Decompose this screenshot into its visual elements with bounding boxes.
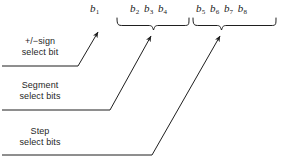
brace-segment-bits (117, 18, 189, 30)
bit-symbol-b3: b3 (144, 2, 153, 14)
bit-allocation-diagram: b1 b2 b3 b4 b5 b6 b7 b8 +/−sign select b… (0, 0, 284, 164)
bit-symbol-b7: b7 (224, 2, 233, 14)
label-sign-line1: +/−sign (2, 36, 78, 47)
bit-subscript-2: 2 (136, 8, 140, 16)
label-step-line2: select bits (2, 137, 78, 148)
bit-subscript-6: 6 (215, 8, 219, 16)
brace-step-bits (193, 18, 276, 30)
bit-symbol-b1: b1 (90, 2, 99, 14)
label-sign-select-bit: +/−sign select bit (2, 36, 78, 58)
bit-symbol-b6: b6 (210, 2, 219, 14)
bit-group-step: b5 b6 b7 b8 (196, 2, 247, 14)
bit-subscript-4: 4 (163, 8, 167, 16)
bit-subscript-1: 1 (96, 8, 100, 16)
bit-subscript-7: 7 (229, 8, 233, 16)
bit-symbol-b4: b4 (158, 2, 167, 14)
label-sign-line2: select bit (2, 47, 78, 58)
bit-group-sign: b1 (90, 2, 99, 14)
bit-subscript-5: 5 (202, 8, 206, 16)
label-step-select-bits: Step select bits (2, 126, 78, 148)
label-step-line1: Step (2, 126, 78, 137)
bit-symbol-b5: b5 (196, 2, 205, 14)
label-segment-select-bits: Segment select bits (2, 80, 78, 102)
bit-symbol-b8: b8 (238, 2, 247, 14)
bit-symbol-b2: b2 (130, 2, 139, 14)
bit-group-segment: b2 b3 b4 (130, 2, 167, 14)
bit-subscript-3: 3 (149, 8, 153, 16)
label-segment-line2: select bits (2, 91, 78, 102)
label-segment-line1: Segment (2, 80, 78, 91)
bit-subscript-8: 8 (243, 8, 247, 16)
